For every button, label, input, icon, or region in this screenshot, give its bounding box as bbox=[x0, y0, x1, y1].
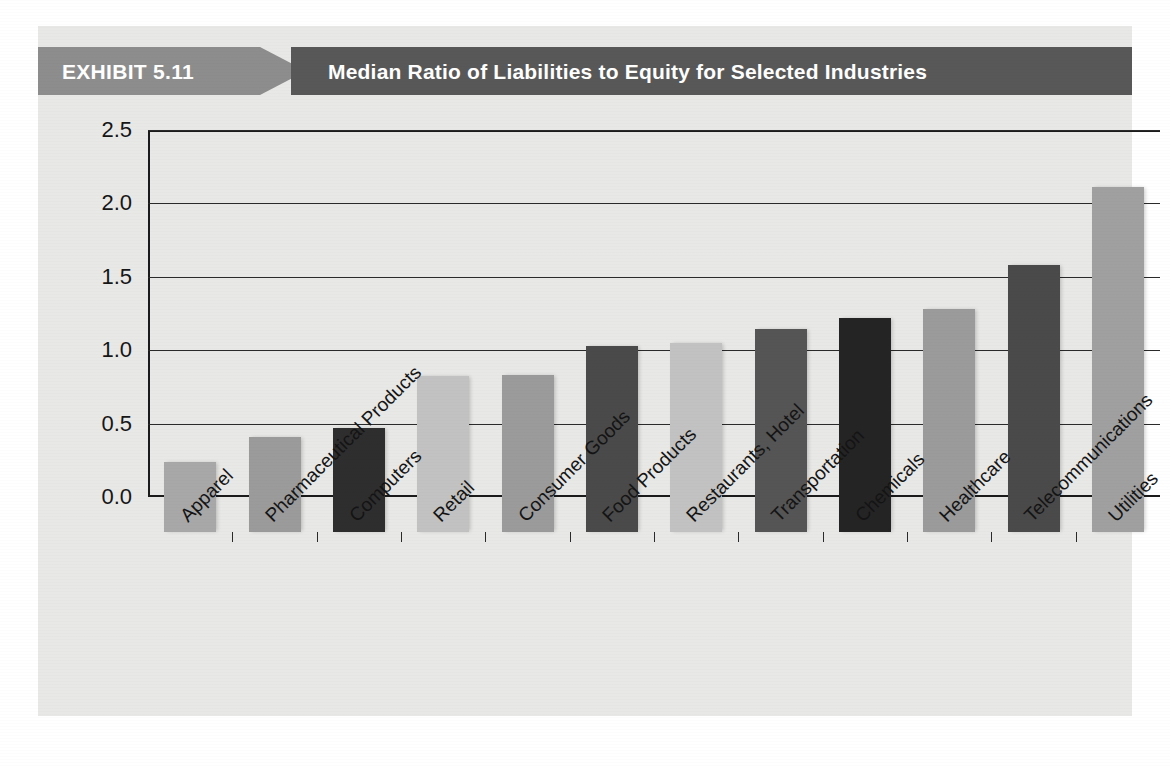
y-tick-label: 2.5 bbox=[101, 117, 132, 143]
x-axis-tick bbox=[401, 532, 402, 542]
x-axis-tick bbox=[317, 532, 318, 542]
x-axis-tick bbox=[738, 532, 739, 542]
axes: 0.00.51.01.52.02.5 ApparelPharmaceutical… bbox=[148, 130, 1160, 532]
y-tick-label: 2.0 bbox=[101, 190, 132, 216]
x-axis-tick bbox=[485, 532, 486, 542]
x-axis-tick bbox=[907, 532, 908, 542]
x-axis-tick bbox=[232, 532, 233, 542]
y-tick-label: 0.0 bbox=[101, 484, 132, 510]
exhibit-title: Median Ratio of Liabilities to Equity fo… bbox=[328, 60, 927, 84]
chart-area: 0.00.51.01.52.02.5 ApparelPharmaceutical… bbox=[38, 95, 1132, 655]
exhibit-banner: EXHIBIT 5.11 Median Ratio of Liabilities… bbox=[38, 47, 1132, 95]
x-axis-tick bbox=[823, 532, 824, 542]
y-tick-label: 1.5 bbox=[101, 264, 132, 290]
x-axis-tick bbox=[570, 532, 571, 542]
gridline bbox=[148, 130, 1160, 131]
x-axis-tick bbox=[1076, 532, 1077, 542]
x-axis-tick bbox=[991, 532, 992, 542]
exhibit-figure: EXHIBIT 5.11 Median Ratio of Liabilities… bbox=[0, 0, 1170, 766]
y-tick-label: 0.5 bbox=[101, 411, 132, 437]
gridline bbox=[148, 203, 1160, 204]
y-tick-label: 1.0 bbox=[101, 337, 132, 363]
exhibit-number-label: EXHIBIT 5.11 bbox=[62, 60, 194, 84]
x-axis-tick bbox=[654, 532, 655, 542]
